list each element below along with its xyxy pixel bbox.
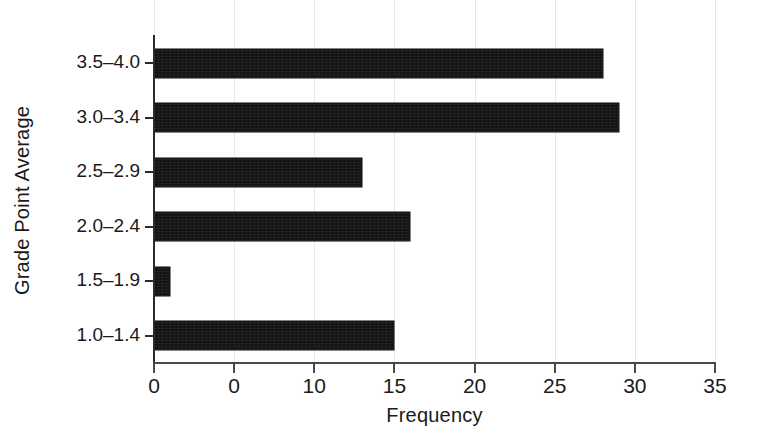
x-axis-title: Frequency [154,404,715,427]
y-tick-mark [145,280,154,282]
y-tick-mark [145,226,154,228]
x-tick-label: 0 [204,374,264,398]
x-tick-label: 25 [525,374,585,398]
x-tick-mark [634,364,636,373]
bar-chart-figure: Grade Point Average 1.0–1.41.5–1.92.0–2.… [0,0,757,437]
x-tick-mark [554,364,556,373]
x-tick-mark [313,364,315,373]
y-tick-mark [145,335,154,337]
y-axis-line [153,35,155,364]
y-tick-label: 2.5–2.9 [30,160,140,182]
y-tick-label: 3.5–4.0 [30,51,140,73]
y-tick-label: 1.0–1.4 [30,324,140,346]
plot-area [154,36,715,363]
bar [154,212,410,241]
x-tick-label: 20 [445,374,505,398]
y-axis-tick-labels: 1.0–1.41.5–1.92.0–2.42.5–2.93.0–3.43.5–4… [28,0,140,437]
bar [154,158,362,187]
x-gridline [635,0,636,363]
y-tick-mark [145,171,154,173]
x-tick-mark [474,364,476,373]
x-tick-mark [714,364,716,373]
x-tick-mark [153,364,155,373]
y-tick-mark [145,117,154,119]
bar [154,103,619,132]
x-tick-label: 10 [284,374,344,398]
x-tick-label: 35 [685,374,745,398]
x-tick-label: 0 [124,374,184,398]
y-tick-label: 1.5–1.9 [30,269,140,291]
bar [154,321,394,350]
y-tick-label: 3.0–3.4 [30,106,140,128]
y-tick-label: 2.0–2.4 [30,215,140,237]
x-tick-mark [393,364,395,373]
bar [154,267,170,296]
y-tick-mark [145,62,154,64]
x-axis-line [153,362,716,364]
x-tick-mark [233,364,235,373]
x-tick-label: 15 [364,374,424,398]
x-tick-label: 30 [605,374,665,398]
x-gridline [715,0,716,363]
bar [154,49,603,78]
